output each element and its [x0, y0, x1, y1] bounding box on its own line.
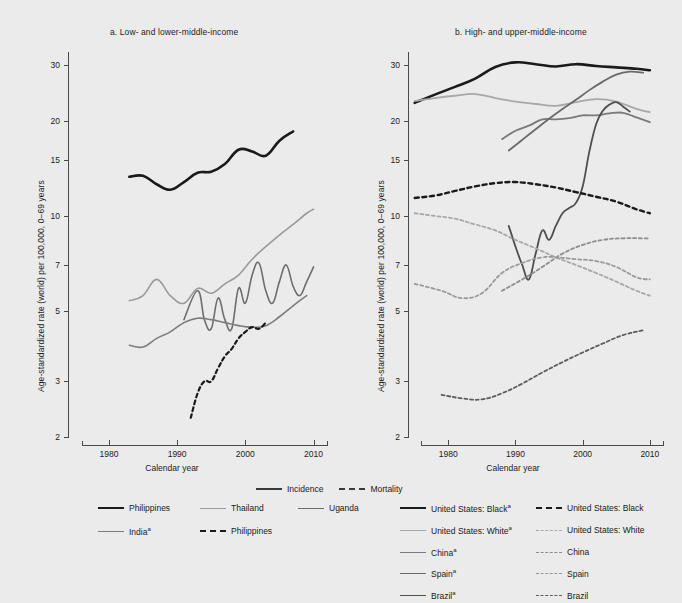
- legend-label: Chinaa: [431, 547, 457, 558]
- legend-label: Indiaa: [129, 526, 151, 537]
- legend-footnote-marker: a: [453, 568, 456, 574]
- y-axis-spine: [408, 52, 409, 438]
- figure-root: a. Low- and lower-middle-income b. High-…: [0, 0, 682, 603]
- legend-label: Uganda: [329, 503, 359, 513]
- legend-item: United States: Whitea: [400, 525, 536, 536]
- legend-footnote-marker: a: [508, 503, 511, 509]
- y-tick-mark: [404, 311, 408, 312]
- legend-item: Mortality: [339, 484, 402, 494]
- x-tick-mark: [245, 440, 246, 445]
- legend-item: Chinaa: [400, 547, 536, 558]
- legend-footnote-marker: a: [452, 590, 455, 596]
- y-tick-mark: [64, 65, 68, 66]
- line-dashed-icon: [536, 530, 562, 531]
- line-dashed-icon: [536, 595, 562, 596]
- line-solid-icon: [400, 573, 426, 574]
- x-tick-mark: [650, 440, 651, 445]
- y-tick-label: 20: [38, 116, 60, 126]
- y-tick-label: 5: [38, 306, 60, 316]
- y-tick-label: 7: [378, 260, 400, 270]
- legend-item: United States: Blacka: [400, 503, 536, 514]
- x-tick-label: 2000: [228, 449, 262, 459]
- x-tick-label: 1990: [498, 449, 532, 459]
- y-tick-label: 20: [378, 116, 400, 126]
- y-tick-label: 30: [378, 60, 400, 70]
- y-tick-label: 3: [38, 376, 60, 386]
- x-tick-label: 1990: [160, 449, 194, 459]
- x-axis-endcap: [663, 441, 664, 446]
- y-tick-mark: [64, 160, 68, 161]
- legend-item: Brazil: [536, 590, 682, 601]
- legend-label: Thailand: [231, 503, 264, 513]
- x-tick-label: 2010: [297, 449, 331, 459]
- line-dashed-icon: [339, 488, 365, 490]
- legend-label: United States: Black: [567, 503, 644, 513]
- x-axis-endcap: [327, 441, 328, 446]
- legend-item: Philippines: [98, 503, 200, 513]
- legend-panel-a: PhilippinesThailandUgandaIndiaaPhilippin…: [98, 503, 388, 537]
- x-tick-mark: [515, 440, 516, 445]
- y-tick-mark: [404, 216, 408, 217]
- y-tick-label: 10: [378, 211, 400, 221]
- line-solid-icon: [98, 507, 124, 509]
- x-axis-endcap: [82, 441, 83, 446]
- legend-label: Mortality: [370, 484, 402, 494]
- legend-item: Uganda: [298, 503, 388, 513]
- legend-footnote-marker: a: [147, 526, 150, 532]
- legend-item: Incidence: [256, 484, 323, 494]
- y-tick-mark: [404, 65, 408, 66]
- legend-item: Indiaa: [98, 526, 200, 537]
- legend-label: United States: Blacka: [431, 503, 511, 514]
- y-tick-mark: [64, 121, 68, 122]
- line-dashed-icon: [536, 573, 562, 574]
- legend-item: United States: White: [536, 525, 682, 536]
- legend-item: Spaina: [400, 568, 536, 579]
- line-dashed-icon: [200, 530, 226, 532]
- panel-a-axes: 2357101520301980199020002010: [68, 52, 334, 437]
- panel-a-x-axis-label: Calendar year: [145, 463, 198, 473]
- legend-item: Brazila: [400, 590, 536, 601]
- y-tick-label: 2: [38, 432, 60, 442]
- x-axis-spine: [421, 445, 663, 446]
- x-tick-label: 1980: [92, 449, 126, 459]
- x-tick-mark: [583, 440, 584, 445]
- y-tick-mark: [64, 437, 68, 438]
- line-solid-icon: [400, 507, 426, 509]
- line-solid-icon: [98, 531, 124, 532]
- y-tick-mark: [404, 437, 408, 438]
- legend-item: Spain: [536, 568, 682, 579]
- legend-label: Brazil: [567, 591, 588, 601]
- line-solid-icon: [400, 552, 426, 553]
- x-tick-label: 1980: [431, 449, 465, 459]
- y-tick-mark: [64, 311, 68, 312]
- y-tick-label: 3: [378, 376, 400, 386]
- line-solid-icon: [400, 530, 426, 531]
- legend-footnote-marker: a: [508, 525, 511, 531]
- x-tick-mark: [448, 440, 449, 445]
- y-tick-mark: [64, 381, 68, 382]
- x-tick-mark: [109, 440, 110, 445]
- y-tick-label: 7: [38, 260, 60, 270]
- y-axis-spine: [68, 52, 69, 438]
- panel-b-x-axis-label: Calendar year: [486, 463, 539, 473]
- x-axis-spine: [82, 445, 328, 446]
- y-tick-label: 10: [38, 211, 60, 221]
- panel-b-title: b. High- and upper-middle-income: [455, 27, 587, 37]
- x-tick-label: 2000: [566, 449, 600, 459]
- x-tick-label: 2010: [633, 449, 667, 459]
- y-tick-label: 15: [38, 155, 60, 165]
- y-tick-mark: [64, 265, 68, 266]
- legend-item: Thailand: [200, 503, 298, 513]
- legend-footnote-marker: a: [453, 547, 456, 553]
- panel-b-axes: 2357101520301980199020002010: [408, 52, 670, 437]
- y-tick-label: 15: [378, 155, 400, 165]
- legend-item: China: [536, 547, 682, 558]
- y-tick-label: 5: [378, 306, 400, 316]
- y-tick-mark: [404, 381, 408, 382]
- legend-label: Brazila: [431, 590, 456, 601]
- y-tick-mark: [64, 216, 68, 217]
- y-tick-mark: [404, 265, 408, 266]
- line-solid-icon: [200, 508, 226, 509]
- x-tick-mark: [177, 440, 178, 445]
- legend-label: United States: Whitea: [431, 525, 512, 536]
